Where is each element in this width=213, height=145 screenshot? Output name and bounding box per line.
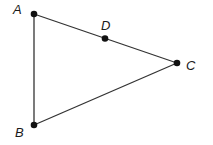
point-b	[31, 122, 38, 129]
triangle-diagram: A D C B	[0, 0, 213, 145]
point-c	[174, 60, 181, 67]
point-a	[31, 11, 38, 18]
segment-bc	[34, 63, 177, 125]
label-c: C	[186, 58, 196, 73]
point-d	[102, 35, 109, 42]
label-d: D	[101, 18, 110, 33]
label-a: A	[12, 2, 22, 17]
label-b: B	[15, 125, 24, 140]
